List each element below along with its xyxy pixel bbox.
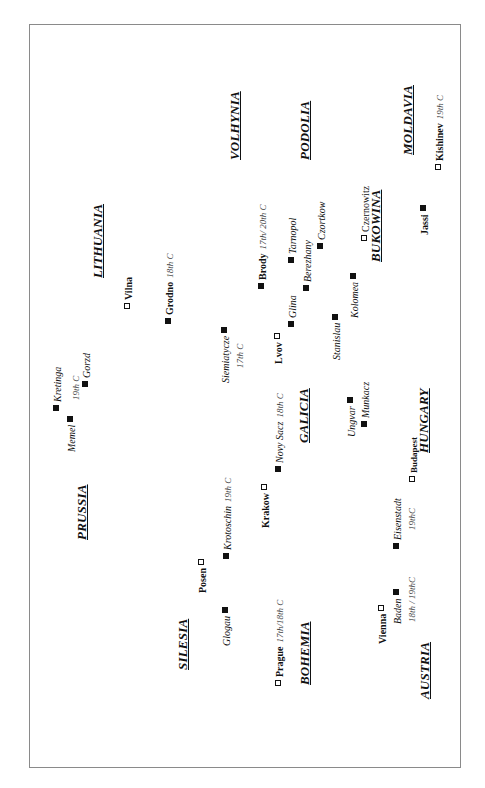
- region-moldavia: MOLDAVIA: [401, 85, 414, 155]
- open-square-icon: [261, 484, 267, 490]
- city-kolomea: Kolomea: [345, 270, 361, 318]
- city-munkacz: Munkacz: [356, 382, 372, 430]
- city-novy-sacz: Novy Sacz 18th C: [270, 393, 286, 475]
- open-square-icon: [198, 559, 204, 565]
- city-prague: Prague 17th/18th C: [270, 600, 286, 689]
- filled-square-icon: [223, 553, 229, 559]
- filled-square-icon: [393, 543, 399, 549]
- region-silesia: SILESIA: [176, 619, 189, 670]
- city-eisenstadt-note: 19thC: [402, 508, 418, 530]
- region-bohemia: BOHEMIA: [298, 621, 311, 685]
- city-posen: Posen: [193, 556, 209, 593]
- filled-square-icon: [275, 466, 281, 472]
- city-baden-note: 18th / 19thC: [402, 577, 418, 622]
- filled-square-icon: [332, 314, 338, 320]
- open-square-icon: [274, 333, 280, 339]
- filled-square-icon: [82, 381, 88, 387]
- city-brody: Brody 17th/ 20th C: [253, 204, 269, 292]
- region-podolia: PODOLIA: [298, 101, 311, 160]
- filled-square-icon: [222, 607, 228, 613]
- open-square-icon: [378, 605, 384, 611]
- filled-square-icon: [303, 285, 309, 291]
- city-berezhany: Berezhany: [298, 240, 314, 294]
- region-lithuania: LITHUANIA: [91, 204, 104, 278]
- filled-square-icon: [361, 421, 367, 427]
- filled-square-icon: [258, 283, 264, 289]
- city-tarnopol: Tarnopol: [283, 218, 299, 266]
- city-memel: Memel: [62, 413, 78, 452]
- city-gorzd: Gorzd: [77, 353, 93, 390]
- city-krotoschin: Krotoschin 19th C: [218, 478, 234, 562]
- city-jassi: Jassi: [415, 202, 431, 235]
- city-kretinga: Kretinga: [48, 367, 64, 414]
- city-stanislau: Stanislau: [327, 311, 343, 360]
- map-frame: [29, 24, 461, 768]
- city-glogau: Glogau: [217, 604, 233, 646]
- filled-square-icon: [221, 327, 227, 333]
- city-glina: Glina: [283, 295, 299, 330]
- city-ungvar: Ungvar: [342, 394, 358, 437]
- region-galicia: GALICIA: [297, 388, 310, 443]
- filled-square-icon: [288, 257, 294, 263]
- filled-square-icon: [393, 589, 399, 595]
- city-budapest: Budapest: [404, 437, 420, 485]
- city-grodno: Grodno 18th C: [160, 254, 176, 327]
- city-vilna: Vilna: [119, 277, 135, 312]
- open-square-icon: [409, 476, 415, 482]
- filled-square-icon: [347, 397, 353, 403]
- city-vienna: Vienna: [373, 602, 389, 644]
- filled-square-icon: [350, 273, 356, 279]
- city-krakow: Krakow: [256, 481, 272, 528]
- filled-square-icon: [317, 243, 323, 249]
- open-square-icon: [124, 303, 130, 309]
- region-austria: AUSTRIA: [418, 642, 431, 699]
- filled-square-icon: [420, 205, 426, 211]
- city-kishinev: Kishinev 19th C: [430, 95, 446, 173]
- filled-square-icon: [67, 416, 73, 422]
- city-czortkow: Czortkow: [312, 202, 328, 252]
- open-square-icon: [435, 164, 441, 170]
- filled-square-icon: [53, 405, 59, 411]
- city-siemiatycze-note: 17th C: [230, 344, 246, 368]
- city-czernowitz: Czernowitz: [356, 186, 372, 244]
- city-lvov: Lvov: [269, 330, 285, 364]
- filled-square-icon: [288, 321, 294, 327]
- region-prussia: PRUSSIA: [75, 484, 88, 540]
- region-volhynia: VOLHYNIA: [228, 91, 241, 160]
- filled-square-icon: [165, 318, 171, 324]
- open-square-icon: [361, 235, 367, 241]
- open-square-icon: [275, 680, 281, 686]
